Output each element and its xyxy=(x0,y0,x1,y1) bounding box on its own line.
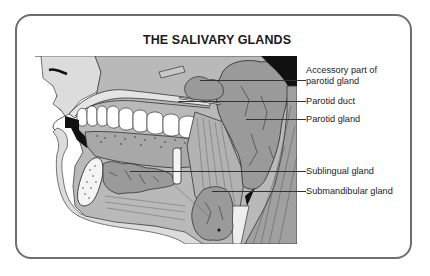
label-accessory-line-2: parotid gland xyxy=(306,76,377,87)
label-parotid-duct: Parotid duct xyxy=(306,96,355,107)
leader-parotid-duct xyxy=(178,101,306,102)
leader-parotid-gland xyxy=(246,119,306,120)
leader-sublingual xyxy=(130,171,306,172)
label-submandibular-gland: Submandibular gland xyxy=(306,186,393,197)
label-accessory-parotid: Accessory part of parotid gland xyxy=(306,65,377,86)
label-parotid-gland: Parotid gland xyxy=(306,114,360,125)
label-sublingual-gland: Sublingual gland xyxy=(306,166,374,177)
label-accessory-line-1: Accessory part of xyxy=(306,65,377,76)
leader-submandibular xyxy=(212,191,306,192)
diagram-title: THE SALIVARY GLANDS xyxy=(0,33,430,47)
leader-accessory-parotid xyxy=(200,80,306,81)
salivary-glands-illustration xyxy=(35,56,297,244)
